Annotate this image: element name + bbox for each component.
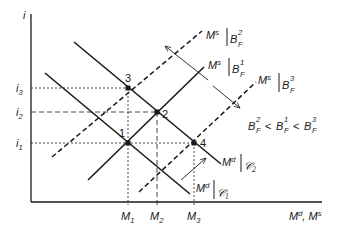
curve-label-ms-bf1: Ms B 1 F [208,58,245,79]
svg-text:Md: Md [222,155,236,168]
tick-M3: M3 [187,210,201,225]
curve-label-ms-bf3: Ms B 3 F [258,73,295,95]
tick-M1: M1 [121,210,134,225]
tick-i3: i3 [16,82,23,97]
svg-text:3: 3 [290,74,295,83]
svg-text:B: B [276,120,283,132]
svg-text:2: 2 [237,28,243,37]
svg-text:F: F [256,126,261,135]
svg-text:1: 1 [240,58,244,67]
y-tick-labels: i3 i2 i1 [16,82,23,152]
svg-text:B: B [248,120,255,132]
curves [45,31,256,194]
guide-lines [31,88,194,205]
svg-text:B: B [304,120,311,132]
point-2-label: 2 [162,108,168,120]
point-4-label: 4 [200,137,206,149]
point-1-label: 1 [119,127,125,139]
svg-text:F: F [312,126,317,135]
curve-label-ms-bf2: Ms B 2 F [206,28,243,49]
point-2-marker [155,110,160,115]
ms-shift-arrow-2 [213,86,240,108]
curve-ms-bf3 [139,82,256,192]
money-market-diagram: 1 2 3 4 i i3 i2 i1 M1 M2 M3 Md, Ms Ms B … [0,0,338,233]
point-3-marker [126,86,131,91]
x-tick-labels: M1 M2 M3 [121,210,201,225]
point-4-marker [192,141,197,146]
svg-text:Ms: Ms [258,73,271,86]
x-axis-label: Md, Ms [289,209,322,222]
svg-text:B: B [282,79,289,91]
svg-text:<: < [265,120,271,132]
svg-text:B: B [230,33,237,45]
curve-label-md-c1: Md 𝒞1 [196,180,229,201]
tick-i1: i1 [16,137,23,152]
svg-text:3: 3 [312,115,317,124]
md-shift-arrow [181,158,206,180]
point-1-marker [126,141,131,146]
svg-text:Ms: Ms [208,58,221,71]
svg-text:F: F [238,40,243,49]
curve-ms-bf2 [52,31,202,157]
curve-md-c2 [74,42,221,164]
ms-shift-arrow [165,46,208,80]
tick-i2: i2 [16,106,23,121]
point-3-label: 3 [125,72,131,84]
svg-text:1: 1 [284,115,288,124]
svg-text:𝒞2: 𝒞2 [244,160,256,174]
svg-text:F: F [240,70,245,79]
svg-text:Md: Md [196,181,210,194]
svg-text:F: F [290,86,295,95]
y-axis-label: i [23,9,26,21]
svg-text:𝒞1: 𝒞1 [217,187,229,201]
curve-label-md-c2: Md 𝒞2 [222,154,256,174]
svg-text:Ms: Ms [206,28,219,41]
curve-md-c1 [45,73,190,194]
svg-text:<: < [293,120,299,132]
svg-text:F: F [284,126,289,135]
tick-M2: M2 [150,210,164,225]
svg-text:B: B [232,63,239,75]
bond-ordering-annotation: B 2 F < B 1 F < B 3 F [248,115,317,135]
svg-text:2: 2 [255,115,261,124]
